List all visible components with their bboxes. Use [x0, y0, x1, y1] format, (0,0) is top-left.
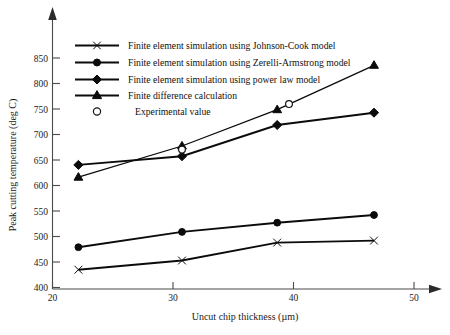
x-tick-label: 20 [48, 293, 58, 303]
legend-entry-finite-difference[interactable]: Finite difference calculation [75, 90, 237, 101]
data-point-marker [179, 146, 186, 153]
y-tick-label: 600 [34, 181, 49, 191]
y-axis-tick-labels: 850 800 750 700 650 600 550 500 450 400 [34, 54, 49, 294]
y-tick-label: 450 [34, 258, 49, 268]
data-point-marker [274, 219, 281, 226]
legend-label: Finite element simulation using Zerelli-… [128, 57, 351, 68]
legend-label: Finite element simulation using power la… [128, 74, 320, 85]
legend-label: Finite difference calculation [128, 90, 237, 101]
data-point-marker [74, 160, 83, 169]
x-axis-ticks [53, 282, 415, 289]
x-axis-tick-labels: 20 30 40 50 [48, 293, 419, 303]
y-axis-ticks [53, 58, 61, 288]
y-tick-label: 650 [34, 156, 49, 166]
hollow-circle-icon [93, 108, 100, 115]
legend-entry-johnson-cook[interactable]: Finite element simulation using Johnson-… [75, 40, 336, 51]
legend-entry-zerelli-armstrong[interactable]: Finite element simulation using Zerelli-… [75, 57, 351, 68]
y-axis-arrowhead [48, 7, 57, 20]
y-tick-label: 400 [34, 283, 49, 293]
data-point-marker [371, 212, 378, 219]
y-tick-label: 850 [34, 54, 49, 64]
series-johnson-cook-model [75, 237, 378, 274]
chart-canvas: 850 800 750 700 650 600 550 500 450 400 … [0, 0, 450, 335]
y-tick-label: 800 [34, 79, 49, 89]
filled-circle-icon [94, 59, 101, 66]
filled-diamond-icon [92, 75, 101, 84]
chart-legend: Finite element simulation using Johnson-… [75, 40, 351, 117]
series-line-power-law [78, 113, 374, 165]
data-point-marker [75, 244, 82, 251]
legend-label: Finite element simulation using Johnson-… [128, 40, 336, 51]
chart-figure: 850 800 750 700 650 600 550 500 450 400 … [0, 0, 450, 335]
x-axis-arrowhead [429, 285, 442, 293]
legend-entry-power-law[interactable]: Finite element simulation using power la… [75, 74, 320, 85]
y-tick-label: 700 [34, 130, 49, 140]
data-point-marker [179, 229, 186, 236]
x-axis-title: Uncut chip thickness (µm) [192, 311, 299, 323]
legend-entry-experimental-value[interactable]: Experimental value [93, 106, 210, 117]
x-tick-label: 40 [289, 293, 299, 303]
data-point-marker [370, 61, 379, 69]
data-point-marker [369, 108, 378, 117]
series-power-law-model [74, 108, 379, 169]
y-tick-label: 550 [34, 207, 49, 217]
series-zerelli-armstrong-model [75, 212, 377, 251]
y-tick-label: 500 [34, 232, 49, 242]
x-tick-label: 30 [168, 293, 178, 303]
x-tick-label: 50 [409, 293, 419, 303]
data-point-marker [286, 101, 293, 108]
y-axis-title: Peak cutting temperature (deg C) [7, 99, 19, 232]
legend-label: Experimental value [135, 106, 211, 117]
y-tick-label: 750 [34, 105, 49, 115]
data-point-marker [273, 121, 282, 130]
series-line-johnson-cook [78, 241, 374, 270]
